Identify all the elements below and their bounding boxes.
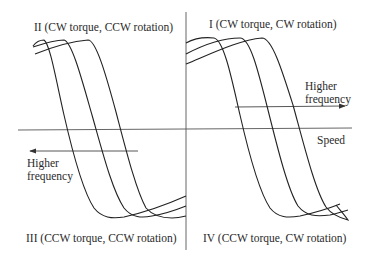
higher-frequency-left-line1: Higher	[27, 157, 59, 170]
higher-frequency-arrow-right	[235, 106, 345, 107]
higher-frequency-right-line2: frequency	[305, 93, 351, 106]
curve-cw-low-frequency	[186, 38, 340, 217]
curve-ccw-mid-frequency	[33, 40, 186, 217]
speed-axis-label: Speed	[317, 134, 345, 147]
quadrant-2-label: II (CW torque, CCW rotation)	[34, 21, 173, 34]
higher-frequency-right-line1: Higher	[305, 80, 337, 93]
speed-axis	[18, 128, 352, 130]
quadrant-4-label: IV (CCW torque, CW rotation)	[203, 232, 346, 245]
higher-frequency-left-line2: frequency	[27, 170, 73, 183]
quadrant-1-label: I (CW torque, CW rotation)	[209, 18, 337, 31]
torque-speed-diagram	[0, 0, 368, 257]
quadrant-3-label: III (CCW torque, CCW rotation)	[26, 232, 177, 245]
curve-cw-mid-frequency	[186, 38, 348, 216]
